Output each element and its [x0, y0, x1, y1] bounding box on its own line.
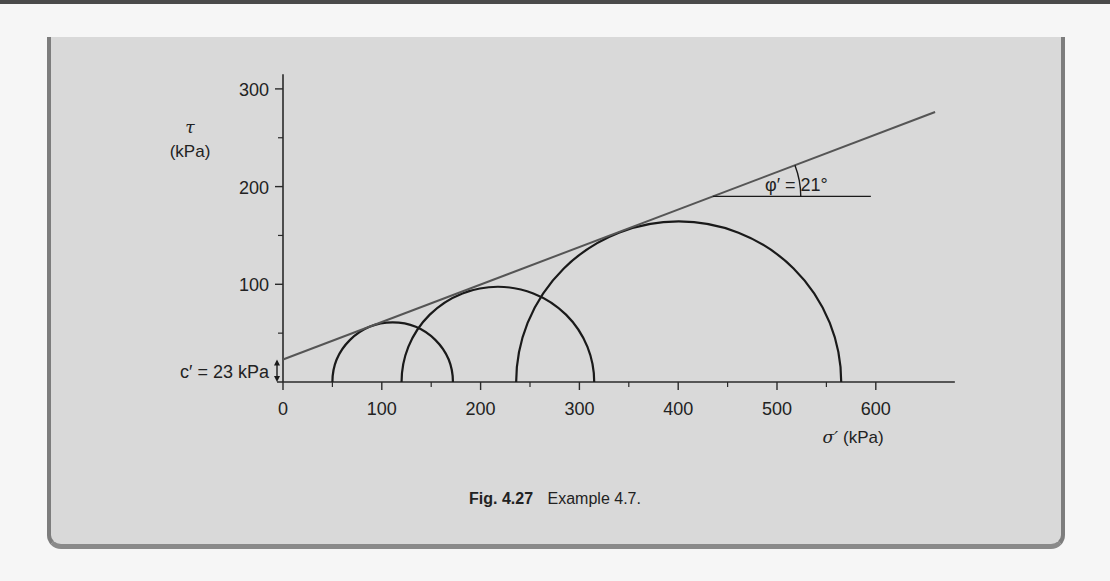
x-axis-label-unit: (kPa): [843, 428, 884, 447]
cohesion-arrow-head-up: [274, 360, 280, 366]
cohesion-label: c′ = 23 kPa: [180, 362, 270, 382]
failure-envelope: [283, 112, 935, 360]
envelope-line: [283, 112, 935, 360]
figure-caption: Fig. 4.27 Example 4.7.: [0, 490, 1110, 508]
axes: [277, 74, 955, 382]
mohr-circle-3: [516, 221, 841, 382]
annotations: [274, 165, 871, 382]
x-tick-label: 100: [367, 399, 397, 419]
y-axis-label-symbol: τ: [185, 117, 195, 137]
mohr-circle-1: [332, 322, 453, 382]
y-axis-label-unit: (kPa): [170, 142, 211, 161]
y-tick-label: 200: [239, 178, 269, 198]
x-tick-label: 500: [762, 399, 792, 419]
x-tick-label: 300: [564, 399, 594, 419]
x-tick-label: 400: [663, 399, 693, 419]
x-tick-label: 200: [466, 399, 496, 419]
x-tick-label: 600: [861, 399, 891, 419]
x-axis-label-symbol: σ′: [823, 427, 839, 447]
cohesion-arrow-head-down: [274, 376, 280, 382]
y-tick-label: 100: [239, 275, 269, 295]
ticks: 0100200300400500600100200300: [239, 80, 891, 419]
x-tick-label: 0: [278, 399, 288, 419]
y-tick-label: 300: [239, 80, 269, 100]
caption-text: Example 4.7.: [548, 490, 641, 507]
figure-number: Fig. 4.27: [469, 490, 533, 507]
mohr-circles: [332, 221, 841, 382]
friction-angle-label: φ′ = 21°: [765, 175, 828, 195]
